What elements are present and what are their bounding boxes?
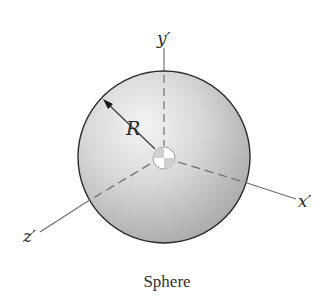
- radius-label: R: [126, 119, 140, 138]
- x-axis-outer: [247, 183, 296, 199]
- figure-caption: Sphere: [0, 272, 334, 292]
- sphere-figure: y′ x′ z′ R Sphere: [0, 0, 334, 296]
- z-axis-label: z′: [23, 228, 36, 245]
- y-axis-label: y′: [157, 30, 170, 47]
- center-of-mass-icon: [153, 147, 175, 169]
- x-axis-label: x′: [298, 193, 311, 210]
- z-axis-outer: [40, 203, 85, 232]
